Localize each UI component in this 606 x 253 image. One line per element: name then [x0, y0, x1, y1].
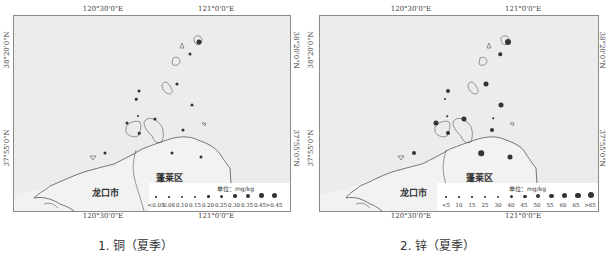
sample-point — [126, 122, 129, 125]
legend-symbol — [562, 193, 567, 198]
top-tick-lon-1: 120°30'0"E — [391, 5, 431, 13]
legend-symbol — [536, 194, 540, 198]
sample-point — [444, 98, 446, 100]
sample-point — [138, 132, 141, 135]
legend-label: 50 — [534, 202, 541, 208]
legend-label: 30 — [495, 202, 502, 208]
sample-point — [484, 82, 489, 87]
legend-symbol — [458, 196, 460, 198]
right-tick-lat-2: 37°55'0"N — [292, 129, 300, 166]
legend-symbol — [259, 193, 264, 198]
left-tick-lat-2: 37°55'0"N — [307, 129, 315, 166]
map-frame: 蓬莱区 龙口市 单位：mg/kg <5 10 15 25 30 40 45 50… — [319, 15, 599, 212]
legend-label: >65 — [584, 202, 596, 208]
place-label-longkou: 龙口市 — [400, 186, 427, 199]
sample-point — [189, 53, 192, 56]
legend-label: 0.20 — [202, 202, 214, 208]
legend-symbol — [246, 194, 250, 198]
figure-caption: 1. 铜（夏季） — [98, 236, 173, 253]
coastline-map — [320, 16, 598, 211]
legend-symbol — [549, 194, 554, 199]
sample-point — [200, 156, 203, 159]
legend-label: 25 — [482, 202, 489, 208]
legend-label: 0.45 — [254, 202, 266, 208]
legend-label: 0.25 — [215, 202, 227, 208]
bottom-tick-lon-1: 120°30'0"E — [391, 212, 431, 220]
bottom-tick-lon-1: 120°30'0"E — [83, 212, 123, 220]
legend-unit: 单位：mg/kg — [509, 184, 546, 193]
legend-symbol — [181, 196, 183, 198]
legend-label: 0.10 — [176, 202, 188, 208]
legend-label: >0.45 — [266, 202, 283, 208]
sample-point — [191, 104, 194, 107]
legend-label: 0.35 — [241, 202, 253, 208]
map-frame: 蓬莱区 龙口市 单位：mg/kg <0.05 0.08 0.10 0.15 0.… — [13, 15, 291, 212]
legend-symbol — [220, 195, 223, 198]
place-label-longkou: 龙口市 — [92, 186, 119, 199]
legend-symbol — [155, 196, 157, 198]
sample-point — [137, 115, 139, 117]
legend-label: 15 — [469, 202, 476, 208]
legend-label: 65 — [573, 202, 580, 208]
right-tick-lat-1: 38°20'0"N — [598, 31, 606, 68]
legend-label: 40 — [508, 202, 515, 208]
top-tick-lon-1: 120°30'0"E — [83, 5, 123, 13]
sample-point — [446, 131, 450, 135]
legend-symbol — [588, 192, 594, 198]
right-tick-lat-1: 38°20'0"N — [292, 31, 300, 68]
legend-symbol — [484, 196, 486, 198]
top-tick-lon-2: 121°0'0"E — [505, 5, 541, 13]
left-tick-lat-1: 38°20'0"N — [3, 31, 11, 68]
sample-point — [490, 128, 494, 132]
sample-point — [176, 83, 179, 86]
legend-label: 55 — [547, 202, 554, 208]
legend-symbol — [168, 196, 170, 198]
right-tick-lat-2: 37°55'0"N — [598, 129, 606, 166]
legend-symbol — [471, 196, 473, 198]
legend-label: 0.08 — [163, 202, 175, 208]
left-tick-lat-2: 37°55'0"N — [3, 129, 11, 166]
legend-symbol — [523, 195, 527, 199]
coastline-map — [14, 16, 290, 211]
legend-symbol — [510, 195, 513, 198]
sample-point — [182, 129, 185, 132]
sample-point — [446, 115, 448, 117]
legend-label: 0.30 — [228, 202, 240, 208]
legend-unit: 单位：mg/kg — [217, 184, 254, 193]
legend-label: 60 — [560, 202, 567, 208]
sample-point — [492, 117, 494, 119]
bottom-tick-lon-2: 121°0'0"E — [198, 212, 234, 220]
legend-symbol — [194, 196, 196, 198]
sample-point — [508, 155, 513, 160]
legend-symbol — [233, 194, 237, 198]
legend-symbol — [207, 195, 210, 198]
sample-point — [498, 52, 502, 56]
sample-point — [138, 90, 141, 93]
map-panel-copper: 120°30'0"E 121°0'0"E 38°20'0"N 37°55'0"N… — [0, 0, 303, 247]
legend: 单位：mg/kg <5 10 15 25 30 40 45 50 55 60 6… — [437, 183, 598, 211]
sample-point — [446, 89, 450, 93]
sample-point — [171, 152, 174, 155]
legend-label: 0.15 — [189, 202, 201, 208]
legend-label: 45 — [521, 202, 528, 208]
legend-symbol — [272, 193, 277, 198]
sample-point — [412, 151, 416, 155]
sample-point — [434, 121, 439, 126]
sample-point — [499, 103, 504, 108]
sample-point — [462, 117, 467, 122]
legend-symbol — [497, 196, 499, 198]
sample-point — [478, 150, 484, 156]
legend-symbol — [575, 193, 581, 199]
top-tick-lon-2: 121°0'0"E — [198, 5, 234, 13]
sample-point — [154, 118, 157, 121]
legend-label: <5 — [442, 202, 450, 208]
map-panel-zinc: 120°30'0"E 121°0'0"E 38°20'0"N 37°55'0"N… — [303, 0, 606, 247]
sample-point — [135, 98, 138, 101]
bottom-tick-lon-2: 121°0'0"E — [505, 212, 541, 220]
legend-label: 10 — [456, 202, 463, 208]
figure-caption: 2. 锌（夏季） — [400, 236, 475, 253]
sample-point — [505, 39, 511, 45]
sample-point — [104, 152, 107, 155]
legend: 单位：mg/kg <0.05 0.08 0.10 0.15 0.20 0.25 … — [149, 183, 290, 211]
legend-symbol — [445, 196, 447, 198]
